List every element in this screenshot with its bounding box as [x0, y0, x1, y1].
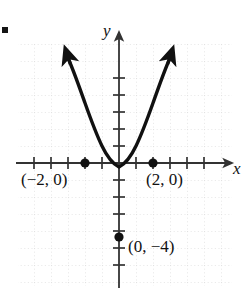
point-vertex	[114, 232, 123, 241]
point-label-vertex: (0, −4)	[128, 238, 174, 255]
parabola-plot	[0, 0, 250, 296]
graph-figure: y x (−2, 0) (2, 0) (0, −4)	[0, 0, 250, 296]
point-label-root-left: (−2, 0)	[21, 171, 67, 188]
point-label-root-right: (2, 0)	[146, 171, 183, 188]
point-root-right	[148, 158, 157, 167]
x-axis-label: x	[233, 160, 241, 177]
y-axis-label: y	[103, 22, 111, 39]
point-root-left	[80, 158, 89, 167]
grid-background	[18, 44, 232, 286]
